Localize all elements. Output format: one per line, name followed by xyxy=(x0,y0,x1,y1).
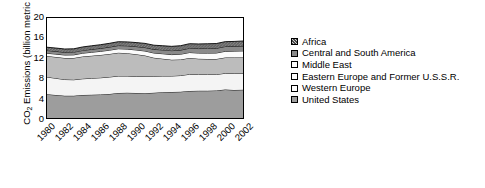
y-axis-tick-label: 12 xyxy=(26,53,44,63)
legend-swatch-icon xyxy=(291,50,298,57)
legend-swatch-icon xyxy=(291,38,298,45)
y-axis-tick-label: 16 xyxy=(26,32,44,42)
legend-item-label: Central and South America xyxy=(302,48,416,58)
x-axis-tick-labels: 1980198219841986198819901992199419961998… xyxy=(46,119,246,179)
legend-swatch-icon xyxy=(291,61,298,68)
y-axis-tick-label: 20 xyxy=(26,12,44,22)
stacked-area-series-group xyxy=(47,18,243,118)
legend-item-label: Western Europe xyxy=(302,83,370,93)
legend-item[interactable]: Eastern Europe and Former U.S.S.R. xyxy=(291,71,483,83)
y-axis-tick-labels: 048121620 xyxy=(22,0,44,188)
legend-item[interactable]: Africa xyxy=(291,36,483,48)
y-axis-tick-label: 8 xyxy=(26,73,44,83)
legend-item-label: Africa xyxy=(302,37,326,47)
legend-item[interactable]: Western Europe xyxy=(291,82,483,94)
co2-emissions-stacked-area-chart: CO2 Emissions (billion metric tons) 0481… xyxy=(0,0,485,188)
legend-item-label: United States xyxy=(302,95,359,105)
plot-area xyxy=(46,17,244,119)
legend-item[interactable]: Middle East xyxy=(291,59,483,71)
legend-item[interactable]: Central and South America xyxy=(291,48,483,60)
chart-legend: AfricaCentral and South AmericaMiddle Ea… xyxy=(291,36,483,106)
legend-item[interactable]: United States xyxy=(291,94,483,106)
legend-item-label: Middle East xyxy=(302,60,352,70)
legend-swatch-icon xyxy=(291,96,298,103)
legend-swatch-icon xyxy=(291,73,298,80)
y-axis-tick-label: 4 xyxy=(26,94,44,104)
legend-swatch-icon xyxy=(291,85,298,92)
legend-item-label: Eastern Europe and Former U.S.S.R. xyxy=(302,72,459,82)
y-axis-tick-label: 0 xyxy=(26,114,44,124)
